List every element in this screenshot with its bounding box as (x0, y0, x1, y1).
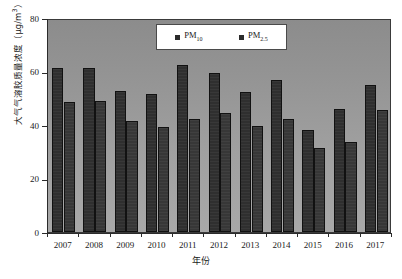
bar-pm2-5-2010 (158, 127, 169, 232)
aerosol-concentration-bar-chart: PM10 PM2.5 020406080 大气气溶胶质量浓度（μg/m3） 20… (0, 0, 402, 279)
bar-pm10-2010 (146, 94, 157, 232)
bar-pm2-5-2017 (377, 110, 388, 233)
y-tick-label-20: 20 (0, 175, 39, 184)
y-tick-80 (42, 19, 47, 20)
x-tick-0 (47, 233, 48, 237)
legend-item-pm25: PM2.5 (239, 31, 268, 44)
bar-pm2-5-2013 (252, 126, 263, 232)
bar-pm10-2013 (240, 92, 251, 232)
bar-pm10-2016 (334, 109, 345, 232)
legend-swatch-pm10-icon (175, 35, 180, 40)
x-tick-10 (360, 233, 361, 237)
bar-pm10-2007 (52, 68, 63, 232)
legend-label-pm10: PM10 (184, 31, 202, 44)
x-tick-11 (391, 233, 392, 237)
y-tick-60 (42, 73, 47, 74)
x-tick-4 (172, 233, 173, 237)
y-axis-title: 大气气溶胶质量浓度（μg/m3） (11, 0, 23, 157)
x-tick-2 (110, 233, 111, 237)
y-axis-line (47, 19, 48, 234)
x-tick-1 (78, 233, 79, 237)
x-tick-8 (297, 233, 298, 237)
bar-pm10-2015 (302, 130, 313, 232)
bar-pm2-5-2011 (189, 119, 200, 232)
bar-pm2-5-2007 (64, 102, 75, 232)
x-tick-6 (235, 233, 236, 237)
y-tick-40 (42, 126, 47, 127)
bar-pm2-5-2016 (345, 142, 356, 232)
bar-pm2-5-2012 (220, 113, 231, 232)
x-tick-3 (141, 233, 142, 237)
x-tick-9 (328, 233, 329, 237)
bar-pm10-2008 (83, 68, 94, 232)
y-tick-20 (42, 180, 47, 181)
x-tick-label-2017: 2017 (355, 240, 395, 250)
y-tick-label-0: 0 (0, 229, 39, 238)
x-tick-5 (203, 233, 204, 237)
legend-swatch-pm25-icon (239, 35, 244, 40)
bar-pm10-2009 (115, 91, 126, 232)
chart-legend: PM10 PM2.5 (156, 24, 287, 50)
x-axis-title: 年份 (0, 254, 402, 267)
bar-pm10-2014 (271, 80, 282, 232)
bar-pm2-5-2008 (95, 101, 106, 232)
legend-label-pm25: PM2.5 (248, 31, 268, 44)
bar-pm2-5-2009 (126, 121, 137, 232)
bar-pm10-2017 (365, 85, 376, 232)
plot-area (47, 19, 391, 233)
bar-pm2-5-2014 (283, 119, 294, 232)
bar-pm10-2011 (177, 65, 188, 232)
bar-pm2-5-2015 (314, 148, 325, 232)
legend-item-pm10: PM10 (175, 31, 202, 44)
x-axis-line (47, 233, 392, 234)
bar-pm10-2012 (209, 73, 220, 232)
x-tick-7 (266, 233, 267, 237)
